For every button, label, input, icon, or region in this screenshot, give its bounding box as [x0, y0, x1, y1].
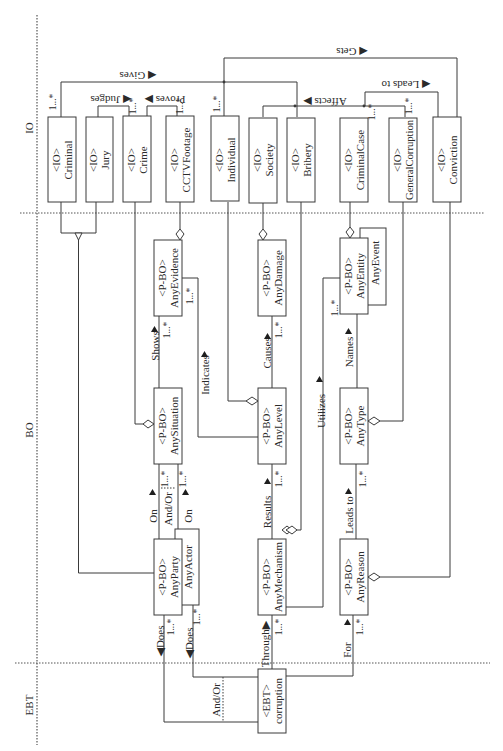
bo-class-anytype[interactable]: <P-BO> AnyType: [340, 388, 368, 464]
svg-text:1...*: 1...*: [367, 103, 377, 120]
svg-text:<P-BO>: <P-BO>: [156, 259, 168, 296]
assoc-on-actor: On: [182, 509, 194, 523]
assoc-does-actor: ◀Does: [183, 627, 195, 658]
for-arrow-icon: [344, 619, 351, 625]
assoc-utilizes: Utilizes: [315, 394, 327, 428]
svg-text:<IO>: <IO>: [125, 148, 137, 172]
leads-to-arrow-icon: [345, 488, 352, 494]
uml-diagram: IO BO EBT: [0, 0, 503, 751]
svg-text:<P-BO>: <P-BO>: [342, 407, 354, 444]
svg-text:1...*: 1...*: [212, 95, 222, 112]
assoc-names: Names: [343, 337, 355, 368]
io-class-jury[interactable]: <IO> Jury: [86, 117, 113, 202]
svg-text:1...*: 1...*: [185, 287, 195, 304]
bo-class-anyentity[interactable]: <P-BO> AnyEntity: [340, 238, 368, 314]
svg-text:AnyActor: AnyActor: [182, 545, 194, 589]
svg-text:<P-BO>: <P-BO>: [260, 259, 272, 296]
svg-text:<P-BO>: <P-BO>: [156, 558, 168, 595]
bo-class-anydamage[interactable]: <P-BO> AnyDamage: [258, 240, 286, 316]
zone-label-io: IO: [23, 122, 35, 134]
svg-text:Criminal: Criminal: [62, 140, 74, 179]
assoc-gets: ◀ Gets: [336, 46, 367, 58]
svg-text:1...*: 1...*: [128, 97, 138, 114]
svg-text:AnyReason: AnyReason: [354, 551, 366, 603]
bo-class-anyreason[interactable]: <P-BO> AnyReason: [340, 539, 368, 615]
assoc-judges: ◀ Judges: [90, 94, 131, 106]
svg-text:GeneralCorruption: GeneralCorruption: [403, 120, 415, 200]
svg-text:<IO>: <IO>: [251, 148, 263, 172]
svg-text:CriminalCase: CriminalCase: [354, 130, 366, 191]
assoc-does-party: ◀Does: [154, 625, 166, 656]
zone-label-bo: BO: [23, 422, 35, 437]
assoc-through: Through▶: [259, 620, 271, 667]
svg-text:AnyEvidence: AnyEvidence: [168, 248, 180, 308]
causes-arrow-icon: [264, 333, 271, 339]
io-class-cctvfootage[interactable]: <IO> CCTVFootage: [166, 116, 194, 202]
svg-text:AnyMechanism: AnyMechanism: [272, 541, 284, 612]
svg-text:AnyEvent: AnyEvent: [369, 241, 381, 286]
svg-text:AnyDamage: AnyDamage: [272, 250, 284, 306]
on-party-arrow-icon: [149, 489, 156, 495]
bo-class-anyevidence[interactable]: <P-BO> AnyEvidence: [154, 240, 182, 316]
assoc-gives: ◀ Gives: [120, 70, 157, 82]
svg-text:1...*: 1...*: [274, 618, 284, 635]
bo-class-anymechanism[interactable]: <P-BO> AnyMechanism: [258, 539, 286, 615]
svg-text:1...*: 1...*: [274, 470, 284, 487]
bo-class-anylevel[interactable]: <P-BO> AnyLevel: [258, 388, 286, 464]
assoc-affects: Affects ▶: [303, 96, 347, 108]
assoc-andor-ebt: And/Or: [210, 683, 222, 717]
svg-text:<P-BO>: <P-BO>: [342, 558, 354, 595]
assoc-leads-to-bo: Leads to: [343, 496, 355, 534]
io-class-bribery[interactable]: <IO> Bribery: [287, 118, 315, 202]
indicates-arrow-icon: [201, 351, 208, 357]
io-class-crime[interactable]: <IO> Crime: [123, 116, 151, 202]
on-actor-arrow-icon: [182, 489, 189, 495]
svg-text:<P-BO>: <P-BO>: [342, 257, 354, 294]
assoc-indicates: Indicates: [199, 355, 211, 395]
bo-class-anysituation[interactable]: <P-BO> AnySituation: [154, 388, 182, 464]
assoc-for: For: [341, 642, 353, 658]
assoc-causes: Causes: [261, 337, 273, 368]
bo-class-anyparty[interactable]: <P-BO> AnyParty: [154, 539, 182, 615]
svg-text:1...*: 1...*: [178, 470, 188, 487]
svg-text:Bribery: Bribery: [301, 143, 313, 177]
svg-text:AnyType: AnyType: [354, 405, 366, 446]
svg-text:1...*: 1...*: [274, 321, 284, 338]
assoc-leads-to-io: ◀ Leads to: [381, 79, 430, 91]
assoc-results: Results: [261, 496, 273, 528]
zone-label-ebt: EBT: [23, 694, 35, 715]
names-arrow-icon: [345, 328, 352, 334]
svg-text:Crime: Crime: [137, 146, 149, 174]
svg-text:<IO>: <IO>: [87, 148, 99, 172]
io-class-society[interactable]: <IO> Society: [249, 118, 277, 203]
svg-text:1...*: 1...*: [166, 618, 176, 635]
svg-text:AnyParty: AnyParty: [168, 555, 180, 598]
svg-text:Conviction: Conviction: [447, 135, 459, 184]
io-class-criminal[interactable]: <IO> Criminal: [48, 117, 76, 202]
svg-text:Individual: Individual: [225, 137, 237, 182]
io-class-criminalcase[interactable]: <IO> CriminalCase: [340, 118, 368, 202]
io-class-individual[interactable]: <IO> Individual: [211, 116, 239, 201]
utilizes-arrow-icon: [316, 376, 323, 382]
svg-text:<IO>: <IO>: [168, 148, 180, 172]
svg-text:<IO>: <IO>: [289, 148, 301, 172]
assoc-andor-bo: And/Or: [162, 492, 174, 526]
results-arrow-icon: [264, 478, 271, 484]
svg-text:1...*: 1...*: [160, 470, 170, 487]
ebt-class-corruption[interactable]: <EBT> corruption: [258, 669, 286, 733]
svg-text:AnySituation: AnySituation: [168, 396, 180, 455]
svg-text:<IO>: <IO>: [50, 148, 62, 172]
svg-text:Jury: Jury: [99, 150, 111, 169]
svg-text:<P-BO>: <P-BO>: [260, 558, 272, 595]
svg-text:<IO>: <IO>: [435, 148, 447, 172]
io-class-conviction[interactable]: <IO> Conviction: [433, 117, 461, 202]
assoc-on-party: On: [147, 509, 159, 523]
svg-text:<IO>: <IO>: [213, 148, 225, 172]
shows-arrow-icon: [151, 326, 158, 332]
assoc-shows: Shows: [149, 331, 161, 360]
svg-text:<EBT>: <EBT>: [260, 684, 272, 717]
svg-text:1...*: 1...*: [355, 618, 365, 635]
svg-text:AnyLevel: AnyLevel: [272, 404, 284, 448]
io-class-generalcorruption[interactable]: <IO> GeneralCorruption: [389, 118, 417, 202]
svg-text:<IO>: <IO>: [391, 148, 403, 172]
